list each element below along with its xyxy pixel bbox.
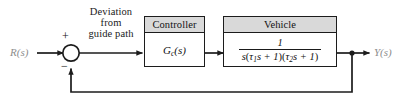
annotation-line-2: from	[73, 17, 149, 28]
den-mid1: s + 1	[257, 51, 279, 62]
output-signal-label: Y(s)	[374, 47, 392, 59]
controller-transfer-function: Gc(s)	[163, 44, 186, 56]
controller-block-body: Gc(s)	[145, 33, 204, 66]
vehicle-block-body: 1 s(τ1s + 1)(τ2s + 1)	[224, 33, 336, 66]
vehicle-transfer-function: 1 s(τ1s + 1)(τ2s + 1)	[239, 37, 321, 63]
controller-symbol-subscript: c	[171, 49, 174, 58]
vehicle-block[interactable]: Vehicle 1 s(τ1s + 1)(τ2s + 1)	[223, 16, 337, 67]
annotation-line-3: guide path	[73, 28, 149, 39]
feedback-takeoff-node	[349, 50, 354, 55]
minus-sign-label: −	[61, 60, 68, 73]
vehicle-block-title: Vehicle	[224, 17, 336, 33]
den-sub1: 1	[253, 55, 257, 64]
den-mid2: s + 1	[293, 51, 315, 62]
plus-sign-label: +	[62, 30, 69, 43]
den-sub2: 2	[289, 55, 293, 64]
annotation-line-1: Deviation	[73, 6, 149, 17]
controller-symbol-base: G	[163, 44, 171, 56]
vehicle-numerator: 1	[239, 37, 321, 49]
vehicle-denominator: s(τ1s + 1)(τ2s + 1)	[239, 49, 321, 63]
controller-symbol-arg: (s)	[174, 44, 186, 56]
controller-block[interactable]: Controller Gc(s)	[144, 16, 205, 67]
control-block-diagram: R(s) Y(s) + − Deviation from guide path …	[0, 0, 401, 106]
deviation-annotation: Deviation from guide path	[73, 6, 149, 39]
input-signal-label: R(s)	[10, 47, 28, 59]
controller-block-title: Controller	[145, 17, 204, 33]
